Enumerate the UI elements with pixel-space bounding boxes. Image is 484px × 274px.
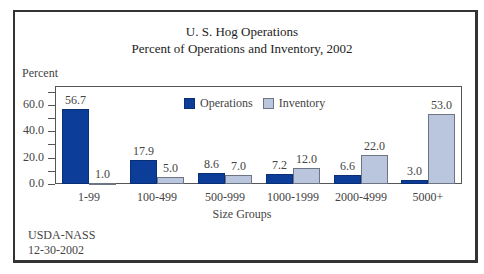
y-tick-label: 20.0	[20, 150, 44, 165]
x-tick-label: 500-999	[190, 190, 260, 205]
y-tick-mark	[48, 144, 55, 145]
x-tick-label: 2000-4999	[326, 190, 396, 205]
value-label: 7.0	[219, 159, 259, 174]
chart-subtitle: Percent of Operations and Inventory, 200…	[0, 41, 484, 57]
legend-swatch-operations	[184, 98, 195, 109]
bar-inventory	[428, 114, 455, 184]
value-label: 12.0	[287, 152, 327, 167]
y-axis-label: Percent	[22, 66, 58, 81]
bar-operations	[401, 180, 428, 184]
bar-operations	[266, 174, 293, 184]
legend: Operations Inventory	[184, 96, 325, 111]
legend-swatch-inventory	[263, 98, 274, 109]
legend-label-operations: Operations	[200, 96, 253, 111]
value-label: 56.7	[56, 93, 96, 108]
value-label: 17.9	[124, 144, 164, 159]
value-label: 53.0	[422, 98, 462, 113]
x-axis-title: Size Groups	[0, 207, 484, 222]
legend-label-inventory: Inventory	[279, 96, 326, 111]
y-tick-mark	[48, 105, 55, 106]
y-tick-mark	[48, 171, 55, 172]
source-label: USDA-NASS	[28, 228, 95, 243]
x-tick-label: 1000-1999	[258, 190, 328, 205]
y-tick-mark	[48, 118, 55, 119]
bar-operations	[334, 175, 361, 184]
y-tick-label: 60.0	[20, 97, 44, 112]
bar-operations	[198, 173, 225, 184]
bar-inventory	[361, 155, 388, 184]
y-tick-label: 0.0	[20, 176, 44, 191]
bar-inventory	[89, 183, 116, 185]
chart-title: U. S. Hog Operations	[0, 24, 484, 40]
y-tick-label: 40.0	[20, 123, 44, 138]
x-tick-label: 5000+	[393, 190, 463, 205]
y-tick-mark	[48, 184, 55, 185]
y-tick-mark	[48, 92, 55, 93]
y-tick-mark	[48, 158, 55, 159]
bar-inventory	[157, 177, 184, 184]
x-tick-label: 100-499	[122, 190, 192, 205]
x-tick-label: 1-99	[54, 190, 124, 205]
value-label: 5.0	[151, 161, 191, 176]
date-label: 12-30-2002	[28, 243, 84, 258]
value-label: 22.0	[355, 139, 395, 154]
bar-inventory	[225, 175, 252, 184]
value-label: 1.0	[83, 167, 123, 182]
y-tick-mark	[48, 131, 55, 132]
bar-inventory	[293, 168, 320, 184]
